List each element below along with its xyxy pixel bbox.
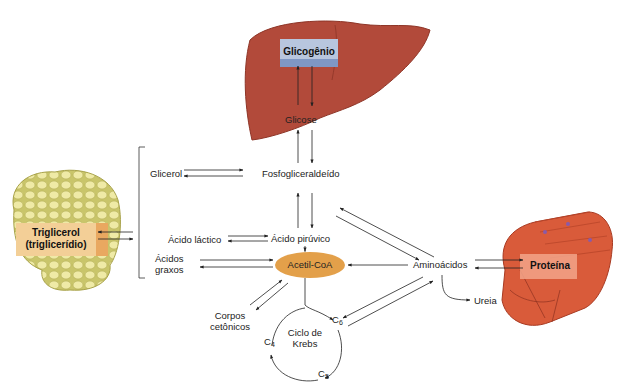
ketone-bodies-line1: Corpos: [205, 310, 255, 321]
lactic-acid-label: Ácido láctico: [168, 234, 221, 245]
c4-sub: 4: [271, 341, 275, 348]
glucose-label: Glicose: [285, 114, 317, 125]
amino-acids-label: Aminoácidos: [413, 259, 467, 270]
ketone-bodies-label: Corpos cetônicos: [205, 310, 255, 332]
fatty-acids-line1: Ácidos: [155, 253, 184, 264]
ketone-bodies-line2: cetônicos: [205, 321, 255, 332]
pyruvic-acid-label: Ácido pirúvico: [271, 233, 330, 244]
c4-base: C: [264, 336, 271, 347]
glyceraldehyde-phosphate-label: Fosfogliceraldeído: [262, 168, 340, 179]
metabolism-diagram: Glicogênio Triglicerol (triglicerídio) P…: [0, 0, 618, 383]
krebs-cycle-line2: Krebs: [282, 338, 328, 349]
triglycerol-label-line2: (triglicerídio): [16, 239, 96, 251]
glycogen-label: Glicogênio: [280, 46, 338, 58]
bracket: [139, 147, 145, 278]
c6-base: C: [332, 314, 339, 325]
c5-sub: 5: [325, 373, 329, 380]
krebs-c5-label: C5: [318, 368, 329, 382]
krebs-cycle-line1: Ciclo de: [282, 327, 328, 338]
krebs-cycle-label: Ciclo de Krebs: [282, 327, 328, 349]
krebs-c4-label: C4: [264, 336, 275, 350]
protein-label: Proteína: [520, 260, 580, 272]
krebs-c6-label: C6: [332, 314, 343, 328]
urea-label: Ureia: [474, 295, 497, 306]
triglycerol-label: Triglicerol (triglicerídio): [16, 227, 96, 251]
acetyl-coa-label: Acetil-CoA: [278, 259, 342, 270]
c5-base: C: [318, 368, 325, 379]
fatty-acids-label: Ácidos graxos: [155, 253, 184, 275]
liver-illustration: [245, 21, 430, 140]
c6-sub: 6: [339, 319, 343, 326]
glycerol-label: Glicerol: [150, 168, 182, 179]
fatty-acids-line2: graxos: [155, 264, 184, 275]
triglycerol-label-line1: Triglicerol: [16, 227, 96, 239]
